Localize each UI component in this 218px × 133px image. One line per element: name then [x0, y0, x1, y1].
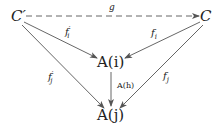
arrow-f-prime-j	[22, 25, 104, 108]
arrow-f-i	[125, 22, 200, 58]
arrow-f-j	[120, 25, 203, 108]
label-sub: i	[67, 32, 69, 40]
commutative-diagram: C′ C A(i) A(j) g f′i fi f′j fj A(h)	[0, 0, 218, 133]
arrow-f-prime-i	[24, 22, 97, 58]
node-c-prime: C′	[11, 9, 26, 24]
label-f-prime-i: f′i	[65, 26, 70, 40]
node-a-i-text: A(i)	[97, 53, 124, 71]
label-sub: i	[155, 33, 157, 41]
node-a-j: A(j)	[97, 108, 124, 123]
label-f-prime-j: f′j	[48, 71, 52, 85]
label-a-h: A(h)	[117, 82, 134, 90]
label-sub: j	[50, 77, 52, 85]
node-a-j-text: A(j)	[97, 106, 124, 124]
node-c: C	[200, 9, 211, 24]
label-f-i: fi	[151, 28, 157, 41]
label-g: g	[109, 3, 115, 12]
node-a-i: A(i)	[97, 55, 124, 70]
label-sub: j	[167, 76, 169, 84]
label-f-j: fj	[163, 71, 169, 84]
